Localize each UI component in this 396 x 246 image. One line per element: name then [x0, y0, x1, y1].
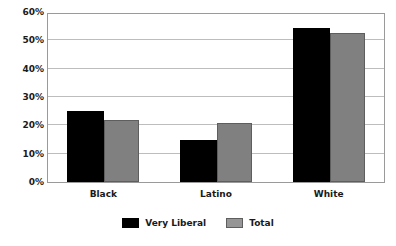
y-axis-tick-label: 10% — [0, 150, 44, 159]
y-axis-tick-label: 30% — [0, 93, 44, 102]
chart-legend: Very LiberalTotal — [0, 218, 396, 228]
x-axis-tick-label: Black — [53, 190, 153, 199]
legend-item[interactable]: Very Liberal — [122, 218, 206, 228]
x-axis-tick-label: White — [279, 190, 379, 199]
x-axis-tick-label: Latino — [166, 190, 266, 199]
legend-label: Total — [249, 219, 274, 228]
bar-black-total — [104, 120, 139, 182]
legend-label: Very Liberal — [145, 219, 206, 228]
y-axis-tick-label: 60% — [0, 8, 44, 17]
legend-swatch-icon — [122, 218, 139, 228]
legend-swatch-icon — [226, 218, 243, 228]
plot-area — [47, 13, 385, 183]
bar-white-very-liberal — [293, 28, 330, 182]
bar-black-very-liberal — [67, 111, 104, 182]
y-axis-tick-label: 50% — [0, 36, 44, 45]
legend-item[interactable]: Total — [226, 218, 274, 228]
bar-latino-very-liberal — [180, 140, 217, 183]
y-axis-tick-label: 20% — [0, 121, 44, 130]
y-axis-tick-label: 40% — [0, 65, 44, 74]
bar-white-total — [330, 33, 365, 182]
bar-latino-total — [217, 123, 252, 183]
y-axis-tick-label: 0% — [0, 178, 44, 187]
bar-chart: 0%10%20%30%40%50%60% BlackLatinoWhite Ve… — [0, 0, 396, 246]
